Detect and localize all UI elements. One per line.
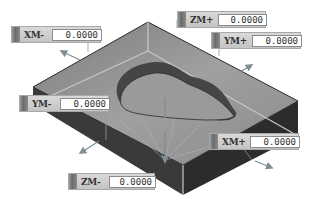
xm-plus-input[interactable] <box>250 136 300 148</box>
ym-plus-offset: YM+ <box>211 32 301 49</box>
drag-handle[interactable] <box>178 12 186 27</box>
ym-plus-input[interactable] <box>252 35 302 47</box>
ym-minus-input[interactable] <box>60 98 110 110</box>
ym-minus-label: YM- <box>28 99 60 109</box>
drag-handle[interactable] <box>12 27 20 42</box>
ym-plus-label: YM+ <box>220 36 252 46</box>
xm-plus-label: XM+ <box>218 137 250 147</box>
zm-plus-input[interactable] <box>218 14 267 26</box>
zm-minus-input[interactable] <box>109 176 156 188</box>
xm-minus-label: XM- <box>20 30 52 40</box>
zm-plus-offset: ZM+ <box>177 11 266 28</box>
xm-minus-input[interactable] <box>52 29 102 41</box>
xm-minus-offset: XM- <box>11 26 101 43</box>
zm-plus-label: ZM+ <box>186 15 218 25</box>
xm-plus-offset: XM+ <box>209 133 299 150</box>
drag-handle[interactable] <box>210 134 218 149</box>
ym-minus-offset: YM- <box>19 95 109 112</box>
zm-minus-offset: ZM- <box>68 173 155 190</box>
drag-handle[interactable] <box>69 174 77 189</box>
zm-minus-label: ZM- <box>77 177 109 187</box>
drag-handle[interactable] <box>20 96 28 111</box>
drag-handle[interactable] <box>212 33 220 48</box>
